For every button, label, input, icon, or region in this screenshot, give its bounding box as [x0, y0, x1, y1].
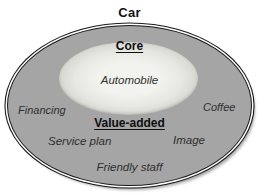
- core-item-automobile: Automobile: [0, 74, 259, 86]
- diagram-title: Car: [0, 5, 259, 20]
- value-added-item-coffee: Coffee: [203, 101, 235, 113]
- core-heading: Core: [0, 39, 259, 53]
- value-added-item-financing: Financing: [18, 104, 66, 116]
- value-added-item-friendly-staff: Friendly staff: [0, 161, 259, 173]
- value-added-heading: Value-added: [0, 116, 259, 130]
- value-added-item-service-plan: Service plan: [48, 135, 111, 147]
- value-added-item-image: Image: [173, 134, 205, 146]
- product-levels-diagram: Car Core Automobile Value-added Financin…: [0, 0, 259, 196]
